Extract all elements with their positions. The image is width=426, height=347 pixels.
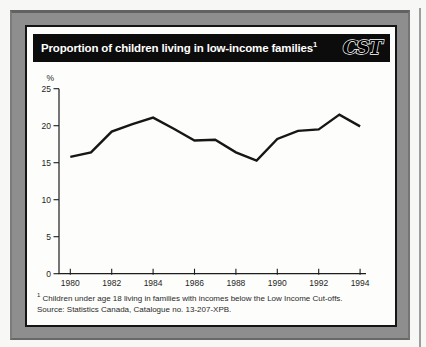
footnote-text: Children under age 18 living in families… xyxy=(43,294,343,303)
y-tick-label: 0 xyxy=(46,269,51,279)
line-chart: 0510152025%19801982198419861988199019921… xyxy=(27,62,399,302)
page-edge-line xyxy=(419,8,421,347)
x-tick-label: 1984 xyxy=(144,278,163,288)
x-tick-label: 1982 xyxy=(102,278,121,288)
chart-title-bar: Proportion of children living in low-inc… xyxy=(33,34,390,62)
x-tick-label: 1992 xyxy=(309,278,328,288)
y-axis-unit-label: % xyxy=(46,73,54,83)
footnote-source: Source: Statistics Canada, Catalogue no.… xyxy=(37,305,393,316)
x-tick-label: 1994 xyxy=(351,278,370,288)
x-tick-label: 1980 xyxy=(61,278,80,288)
chart-title-text: Proportion of children living in low-inc… xyxy=(41,42,313,54)
cst-logo: CST xyxy=(339,36,385,60)
footnote-marker: 1 xyxy=(37,292,40,298)
chart-title-footnote-marker: 1 xyxy=(313,40,317,49)
footnote-line-1: 1 Children under age 18 living in famili… xyxy=(37,294,393,305)
y-tick-label: 10 xyxy=(42,195,52,205)
x-tick-label: 1988 xyxy=(226,278,245,288)
axes-line xyxy=(59,89,366,274)
cst-logo-text: CST xyxy=(343,36,385,58)
footnote: 1 Children under age 18 living in famili… xyxy=(37,294,393,315)
data-line xyxy=(70,115,360,161)
gray-panel: Proportion of children living in low-inc… xyxy=(10,10,410,340)
y-tick-label: 20 xyxy=(42,121,52,131)
y-tick-label: 15 xyxy=(42,158,52,168)
x-tick-label: 1986 xyxy=(185,278,204,288)
chart-title: Proportion of children living in low-inc… xyxy=(41,42,317,54)
y-tick-label: 25 xyxy=(42,84,52,94)
chart-card: Proportion of children living in low-inc… xyxy=(25,25,397,327)
y-tick-label: 5 xyxy=(46,232,51,242)
x-tick-label: 1990 xyxy=(268,278,287,288)
